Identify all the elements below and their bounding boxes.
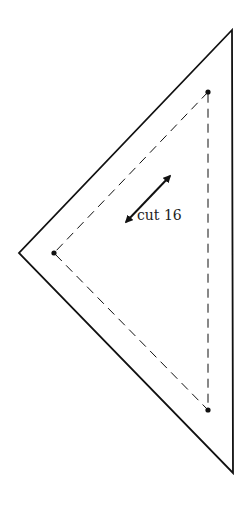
cut-quantity-label: cut 16 [137, 207, 182, 223]
pattern-piece-diagram: cut 16 [0, 0, 244, 512]
seam-line-dashed [54, 92, 208, 410]
seam-corner-dot-left [51, 250, 56, 255]
seam-corner-dot-top [205, 89, 210, 94]
seam-corner-dot-bottom [205, 407, 210, 412]
cutting-line-outline [19, 30, 233, 473]
